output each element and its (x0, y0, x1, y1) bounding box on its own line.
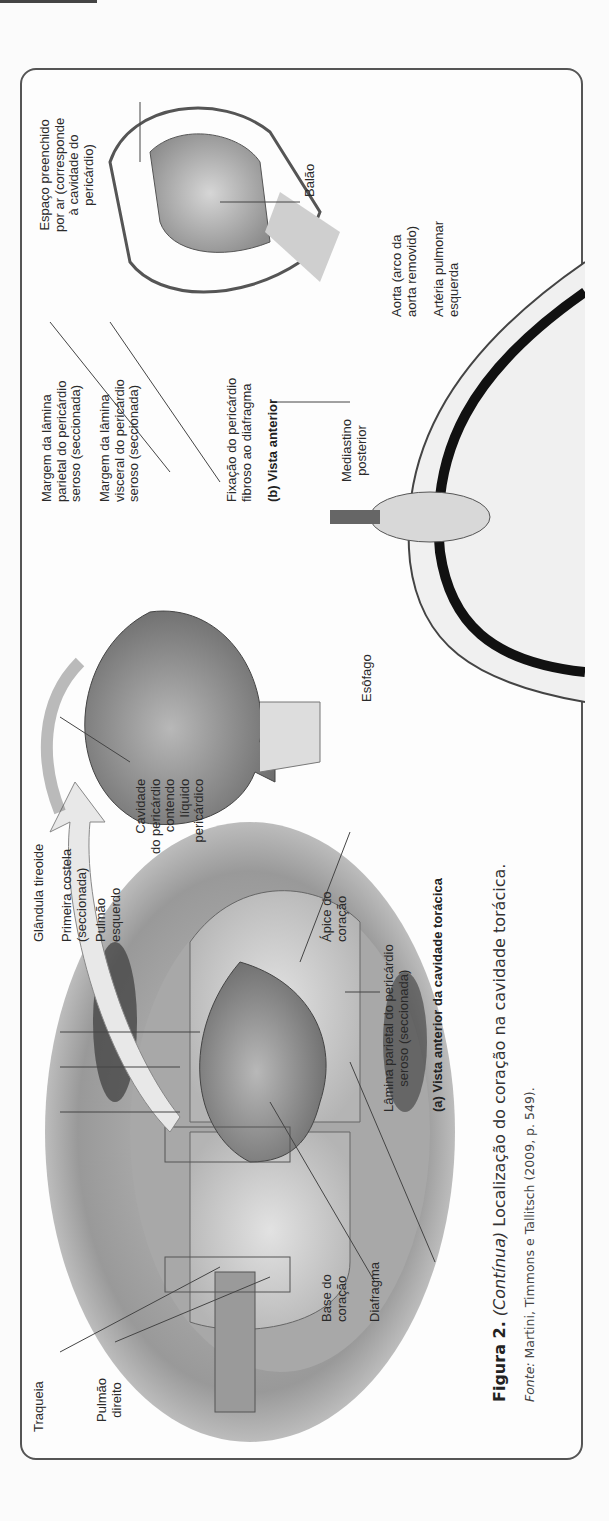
label-line: fibroso ao diafragma (240, 378, 255, 502)
label-line: posterior (355, 419, 370, 482)
figure-source: Fonte: Martini, Timmons e Tallitsch (200… (522, 1087, 537, 1402)
label-line: contendo (163, 779, 178, 854)
label-line: esquerdo (109, 888, 124, 942)
label-line: Pulmão (95, 1378, 110, 1422)
label-line: do pericárdio (149, 779, 164, 854)
label-base-coracao: Base do coração (320, 1274, 349, 1322)
page-header-rule (0, 0, 97, 3)
label-line: Base do (320, 1274, 335, 1322)
label-line: seroso (seccionada) (397, 944, 412, 1112)
figure-canvas-rotated: Traqueia Pulmão direito Base do coração … (20, 68, 585, 1462)
label-lamina-parietal: Lâmina parietal do pericárdio seroso (se… (382, 944, 411, 1112)
label-line: seroso (seccionada) (69, 381, 84, 502)
balloon-fist-illustration (110, 108, 340, 292)
source-text: Martini, Timmons e Tallitsch (2009, p. 5… (522, 1087, 537, 1358)
label-arteria-pulmonar: Artéria pulmonar esquerda (432, 221, 461, 317)
label-mediastino-posterior: Mediastino posterior (340, 419, 369, 482)
label-line: aorta removido) (405, 226, 420, 317)
label-apice-coracao: Ápice do coração (320, 891, 349, 942)
figure-continued: (Contínua) (490, 1232, 509, 1316)
label-espaco-preenchido: Espaço preenchido por ar (corresponde à … (38, 118, 96, 232)
label-line: à cavidade do (67, 118, 82, 232)
label-line: Pulmão (94, 888, 109, 942)
label-line: Margem da lâmina (98, 379, 113, 502)
label-glandula-tireoide: Glândula tireoide (32, 844, 47, 942)
label-traqueia: Traqueia (32, 1381, 47, 1432)
label-line: visceral do pericárdio (113, 379, 128, 502)
label-line: coração (335, 891, 350, 942)
label-primeira-costela: Primeira costela (seccionada) (60, 849, 89, 942)
label-line: esquerda (447, 221, 462, 317)
label-line: coração (335, 1274, 350, 1322)
panel-b-title: (b) Vista anterior (265, 399, 280, 502)
label-pulmao-direito: Pulmão direito (95, 1378, 124, 1422)
label-cavidade-pericardio: Cavidade do pericárdio contendo líquido … (134, 779, 207, 854)
label-line: Ápice do (320, 891, 335, 942)
source-label: Fonte: (522, 1362, 537, 1402)
label-fixacao-pericardio: Fixação do pericárdio fibroso ao diafrag… (225, 378, 254, 502)
label-line: direito (110, 1378, 125, 1422)
label-line: Margem da lâmina (40, 381, 55, 502)
panel-a-title: (a) Vista anterior da cavidade torácica (430, 878, 445, 1112)
label-line: Fixação do pericárdio (225, 378, 240, 502)
label-aorta: Aorta (arco da aorta removido) (390, 226, 419, 317)
label-line: Primeira costela (60, 849, 75, 942)
label-line: pericárdio) (82, 118, 97, 232)
figure-number: Figura 2. (490, 1321, 509, 1402)
label-pulmao-esquerdo: Pulmão esquerdo (94, 888, 123, 942)
cross-section-illustration (330, 262, 585, 702)
label-line: Mediastino (340, 419, 355, 482)
label-margem-visceral: Margem da lâmina visceral do pericárdio … (98, 379, 142, 502)
label-margem-parietal: Margem da lâmina parietal do pericárdio … (40, 381, 84, 502)
label-line: seroso (seccionada) (127, 379, 142, 502)
label-line: Cavidade (134, 779, 149, 854)
label-line: Artéria pulmonar (432, 221, 447, 317)
label-line: líquido (178, 779, 193, 854)
figure-caption-text: Localização do coração na cavidade torác… (490, 864, 509, 1227)
label-line: Aorta (arco da (390, 226, 405, 317)
label-line: por ar (corresponde (53, 118, 68, 232)
label-line: (seccionada) (75, 849, 90, 942)
label-diafragma: Diafragma (368, 1262, 383, 1322)
label-line: Espaço preenchido (38, 118, 53, 232)
label-line: pericárdico (192, 779, 207, 854)
figure-caption: Figura 2. (Contínua) Localização do cora… (490, 864, 509, 1402)
label-line: parietal do pericárdio (55, 381, 70, 502)
label-balao: Balão (303, 164, 318, 197)
label-line: Lâmina parietal do pericárdio (382, 944, 397, 1112)
label-esofago: Esôfago (360, 654, 375, 702)
